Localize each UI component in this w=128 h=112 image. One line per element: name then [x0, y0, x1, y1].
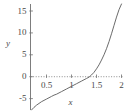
- x-tick-label: 0.5: [33, 81, 61, 90]
- x-tick-label: 2: [108, 81, 128, 90]
- x-tick-label: 1: [58, 81, 86, 90]
- data-series: [32, 4, 122, 110]
- y-tick-label: -5: [0, 94, 27, 103]
- y-axis-label: y: [6, 39, 10, 48]
- y-tick-label: 5: [0, 50, 27, 59]
- y-tick-label: 10: [0, 28, 27, 37]
- x-axis-ticks: [47, 75, 122, 78]
- x-axis-label: x: [69, 98, 73, 107]
- y-tick-label: 15: [0, 7, 27, 16]
- x-tick-label: 1.5: [83, 81, 111, 90]
- chart-figure: 151050-5 0.511.52 y x: [0, 0, 127, 112]
- y-tick-label: 0: [0, 72, 27, 81]
- series-line: [32, 4, 122, 110]
